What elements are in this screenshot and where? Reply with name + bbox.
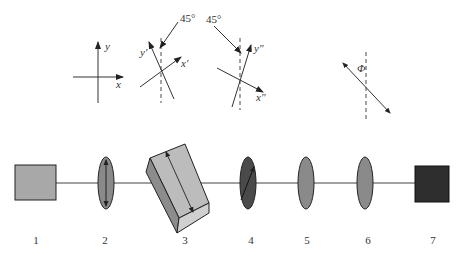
label-2: 2 bbox=[102, 234, 108, 246]
label-6: 6 bbox=[365, 234, 371, 246]
x-double-prime-label: x″ bbox=[255, 91, 266, 103]
component-7-detector bbox=[415, 166, 449, 202]
component-5-element bbox=[298, 157, 314, 209]
x-axis-label: x bbox=[115, 78, 121, 90]
component-3-crystal-prism bbox=[146, 144, 209, 233]
label-4: 4 bbox=[248, 234, 254, 246]
optical-setup-diagram: y x 45° y′ x′ 45° y″ x″ Φ bbox=[0, 0, 465, 257]
x-prime-label: x′ bbox=[180, 57, 189, 69]
component-6-analyzer bbox=[357, 157, 373, 209]
label-1: 1 bbox=[33, 234, 39, 246]
label-5: 5 bbox=[304, 234, 310, 246]
y-prime-label: y′ bbox=[139, 46, 148, 58]
angle-label-double-prime: 45° bbox=[206, 13, 221, 25]
y-double-prime-label: y″ bbox=[253, 42, 264, 54]
label-3: 3 bbox=[182, 234, 188, 246]
component-4-waveplate bbox=[240, 157, 256, 209]
y-axis-label: y bbox=[104, 40, 110, 52]
phi-label: Φ bbox=[357, 62, 366, 74]
rotated-axes-prime: 45° y′ x′ bbox=[139, 12, 195, 103]
component-2-polarizer bbox=[98, 157, 114, 209]
component-1-source bbox=[15, 165, 56, 200]
phi-axis: Φ bbox=[343, 52, 390, 119]
label-7: 7 bbox=[430, 234, 436, 246]
angle-label-prime: 45° bbox=[180, 12, 195, 24]
rotated-axes-double-prime: 45° y″ x″ bbox=[206, 13, 266, 110]
original-axes: y x bbox=[73, 40, 123, 103]
